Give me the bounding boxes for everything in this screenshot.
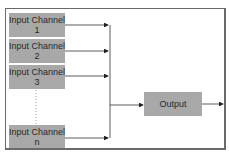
connector-lines xyxy=(0,0,229,158)
